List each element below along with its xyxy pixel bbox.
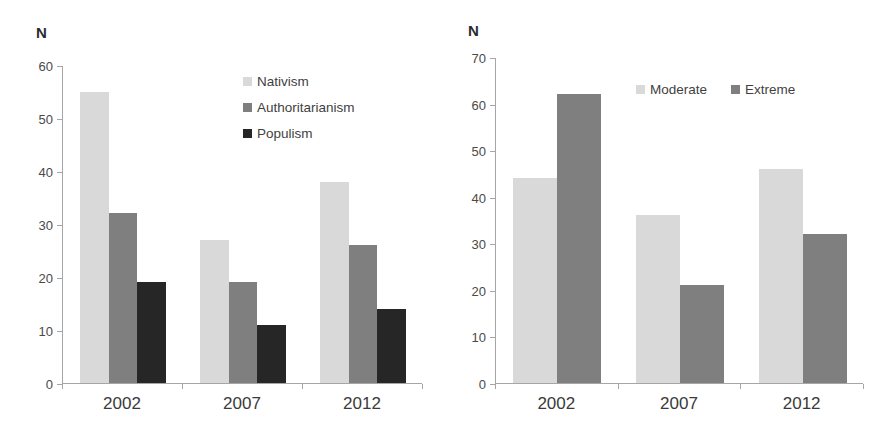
y-axis-tick-label: 60 <box>472 97 486 112</box>
dual-bar-chart-figure: N 0102030405060200220072012 NativismAuth… <box>0 0 876 437</box>
x-axis-tick <box>62 384 63 389</box>
x-axis-tick <box>618 384 619 389</box>
y-axis-tick-label: 20 <box>472 283 486 298</box>
right-panel: N 010203040506070200220072012 ModerateEx… <box>438 0 876 437</box>
y-axis-tick <box>490 151 495 152</box>
y-axis-tick-label: 30 <box>39 218 53 233</box>
y-axis-tick <box>57 172 62 173</box>
y-axis-unit-label-right: N <box>468 22 479 39</box>
bar <box>200 240 229 383</box>
legend-item: Populism <box>243 126 355 141</box>
legend-label: Populism <box>257 126 313 141</box>
x-axis-category-label: 2002 <box>537 394 575 414</box>
legend-swatch-icon <box>636 85 645 94</box>
y-axis-tick-label: 0 <box>46 377 53 392</box>
y-axis-tick <box>57 225 62 226</box>
y-axis-unit-label-left: N <box>36 24 47 41</box>
bar <box>109 213 138 383</box>
x-axis-category-label: 2012 <box>343 394 381 414</box>
x-axis-tick <box>863 384 864 389</box>
bar <box>80 92 109 384</box>
bar <box>137 282 166 383</box>
y-axis-tick <box>57 278 62 279</box>
bar <box>759 169 803 383</box>
y-axis-tick <box>490 244 495 245</box>
plot-area-left: 0102030405060200220072012 <box>62 66 422 384</box>
plot-area-right: 010203040506070200220072012 <box>495 58 863 384</box>
y-axis-tick-label: 60 <box>39 59 53 74</box>
x-axis-tick <box>302 384 303 389</box>
x-axis-category-label: 2002 <box>103 394 141 414</box>
legend-label: Authoritarianism <box>257 100 355 115</box>
bar <box>229 282 258 383</box>
legend-item: Nativism <box>243 74 355 89</box>
y-axis-tick <box>490 105 495 106</box>
bar <box>557 94 601 383</box>
legend-item: Moderate <box>636 82 707 97</box>
y-axis-tick-label: 10 <box>39 324 53 339</box>
legend-item: Extreme <box>731 82 795 97</box>
legend-label: Nativism <box>257 74 309 89</box>
y-axis-tick-label: 10 <box>472 330 486 345</box>
bars-layer-right <box>496 58 863 383</box>
y-axis-tick <box>57 119 62 120</box>
bar <box>349 245 378 383</box>
legend-label: Extreme <box>745 82 795 97</box>
bar <box>320 182 349 383</box>
y-axis-tick-label: 70 <box>472 51 486 66</box>
bar <box>257 325 286 383</box>
x-axis-tick <box>182 384 183 389</box>
bar <box>377 309 406 383</box>
x-axis-category-label: 2007 <box>660 394 698 414</box>
x-axis-tick <box>740 384 741 389</box>
bar <box>636 215 680 383</box>
y-axis-tick <box>490 291 495 292</box>
bar <box>680 285 724 383</box>
y-axis-tick-label: 40 <box>472 190 486 205</box>
bar <box>513 178 557 383</box>
legend-left: NativismAuthoritarianismPopulism <box>243 74 355 152</box>
y-axis-tick-label: 50 <box>472 144 486 159</box>
y-axis-tick-label: 20 <box>39 271 53 286</box>
legend-swatch-icon <box>243 129 252 138</box>
y-axis-tick <box>57 331 62 332</box>
y-axis-tick-label: 40 <box>39 165 53 180</box>
x-axis-category-label: 2007 <box>223 394 261 414</box>
legend-swatch-icon <box>243 103 252 112</box>
y-axis-tick <box>490 198 495 199</box>
legend-item: Authoritarianism <box>243 100 355 115</box>
x-axis-line-left <box>62 383 422 384</box>
x-axis-line-right <box>495 383 863 384</box>
left-panel: N 0102030405060200220072012 NativismAuth… <box>0 0 438 437</box>
legend-right: ModerateExtreme <box>636 82 819 97</box>
x-axis-category-label: 2012 <box>783 394 821 414</box>
y-axis-tick <box>490 58 495 59</box>
y-axis-tick-label: 0 <box>479 377 486 392</box>
y-axis-tick <box>490 337 495 338</box>
legend-label: Moderate <box>650 82 707 97</box>
legend-swatch-icon <box>243 77 252 86</box>
legend-swatch-icon <box>731 85 740 94</box>
y-axis-tick-label: 30 <box>472 237 486 252</box>
y-axis-tick-label: 50 <box>39 112 53 127</box>
bar <box>803 234 847 383</box>
x-axis-tick <box>422 384 423 389</box>
x-axis-tick <box>495 384 496 389</box>
y-axis-tick <box>57 66 62 67</box>
